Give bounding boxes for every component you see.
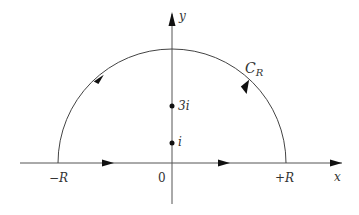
right-endpoint-label: +R [275,171,294,185]
point-3i-label: 3i [178,99,190,113]
y-axis-arrow-icon [169,12,176,26]
x-axis-arrow-icon [330,160,342,167]
left-endpoint-label: −R [49,171,68,185]
segment-arrow-left-icon [102,160,114,167]
contour-label-main: C [245,60,256,76]
point-i-label: i [178,135,182,149]
contour-label: CR [245,60,264,78]
segment-arrow-right-icon [218,160,230,167]
point-3i [170,104,175,109]
point-i [170,141,175,146]
contour-label-sub: R [255,67,264,78]
y-axis-label: y [178,9,186,23]
origin-label: 0 [158,171,166,185]
x-axis-label: x [334,170,341,184]
contour-diagram: y x 0 −R +R 3i i CR [0,0,359,215]
diagram-svg: y x 0 −R +R 3i i CR [0,0,359,215]
arc-arrow-right-icon [240,80,250,95]
